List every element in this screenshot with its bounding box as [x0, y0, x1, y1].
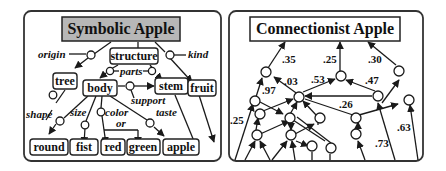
weight-label: .53 — [311, 73, 325, 85]
unit — [404, 95, 414, 105]
label-parts: parts — [119, 65, 143, 77]
node-stem: stem — [159, 79, 183, 93]
parts-left-circle — [106, 67, 113, 74]
weight-label: .97 — [262, 84, 276, 96]
weight-label: .25 — [230, 114, 244, 126]
tree-shape-circle — [49, 91, 57, 99]
label-origin: origin — [38, 48, 66, 60]
shape-circle — [56, 117, 64, 125]
weight-label: .73 — [375, 137, 389, 149]
weight-label: .26 — [339, 98, 353, 110]
node-green: green — [129, 140, 158, 154]
symbolic-panel: Symbolic Apple structure tree body stem … — [24, 11, 221, 161]
unit — [336, 71, 346, 81]
taste-circle — [146, 119, 154, 127]
unit — [261, 67, 271, 77]
label-size: size — [69, 106, 87, 118]
label-or: or — [116, 117, 127, 129]
weight-label: .03 — [284, 75, 298, 87]
weight-label: .30 — [368, 53, 382, 65]
unit — [285, 113, 295, 123]
unit — [351, 113, 361, 123]
unit — [351, 129, 361, 139]
node-body: body — [87, 81, 112, 95]
support-circle — [126, 82, 134, 90]
weight-label: .47 — [365, 74, 379, 86]
node-round: round — [33, 140, 64, 154]
parts-right-circle — [148, 67, 155, 74]
weight-label: .63 — [397, 121, 411, 133]
unit — [373, 91, 383, 101]
unit — [286, 130, 296, 140]
node-structure: structure — [110, 49, 158, 63]
node-tree: tree — [55, 74, 75, 88]
node-fruit: fruit — [190, 81, 213, 95]
apple-representation-diagram: Symbolic Apple structure tree body stem … — [0, 0, 446, 171]
weight-label: .25 — [323, 53, 337, 65]
unit — [250, 96, 260, 106]
node-apple: apple — [167, 140, 196, 154]
label-shape: shape — [25, 108, 52, 120]
unit — [326, 143, 336, 153]
connectionist-panel: Connectionist Apple .35 .25 .30 .03 .53 … — [229, 11, 423, 161]
label-taste: taste — [156, 106, 177, 118]
label-support: support — [130, 94, 166, 106]
size-circle — [81, 121, 89, 129]
origin-circle — [87, 51, 95, 59]
unit — [255, 109, 265, 119]
unit — [394, 66, 404, 76]
node-red: red — [104, 140, 121, 154]
node-fist: fist — [76, 140, 92, 154]
label-kind: kind — [188, 48, 209, 60]
unit — [252, 130, 262, 140]
kind-circle — [166, 51, 174, 59]
color-circle — [97, 108, 105, 116]
unit — [315, 113, 325, 123]
weight-label: .35 — [282, 53, 296, 65]
unit — [307, 141, 317, 151]
symbolic-title: Symbolic Apple — [67, 20, 174, 38]
unit — [294, 92, 304, 102]
connectionist-title: Connectionist Apple — [256, 20, 394, 38]
